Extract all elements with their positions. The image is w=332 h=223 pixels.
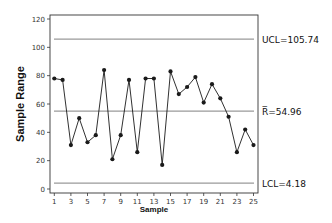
- y-tick-label: 40: [36, 129, 45, 137]
- y-axis-title: Sample Range: [14, 66, 26, 142]
- y-tick-label: 60: [36, 101, 45, 109]
- data-point: [235, 150, 239, 154]
- x-tick-label: 17: [183, 198, 192, 206]
- x-tick-label: 1: [52, 198, 56, 206]
- data-point: [144, 76, 148, 80]
- data-point: [85, 140, 89, 144]
- data-point: [69, 143, 73, 147]
- data-point: [227, 115, 231, 119]
- x-axis-title: Sample: [140, 205, 169, 214]
- data-point: [243, 127, 247, 131]
- y-tick-label: 80: [36, 72, 45, 80]
- data-point: [193, 75, 197, 79]
- data-series: [52, 68, 255, 167]
- y-tick-label: 0: [41, 186, 45, 194]
- plot-border: [50, 15, 258, 193]
- x-tick-label: 21: [216, 198, 225, 206]
- rbar-label: R̅=54.96: [262, 106, 302, 117]
- data-point: [251, 143, 255, 147]
- series-line: [54, 70, 253, 165]
- x-tick-label: 5: [85, 198, 89, 206]
- x-tick-label: 25: [249, 198, 258, 206]
- x-tick-label: 3: [69, 198, 73, 206]
- x-tick-label: 23: [232, 198, 241, 206]
- data-point: [168, 69, 172, 73]
- data-point: [218, 96, 222, 100]
- x-tick-label: 9: [118, 198, 122, 206]
- data-point: [52, 76, 56, 80]
- data-point: [185, 85, 189, 89]
- data-point: [102, 68, 106, 72]
- data-point: [177, 92, 181, 96]
- control-limits: UCL=105.74R̅=54.96LCL=4.18: [54, 35, 319, 189]
- data-point: [119, 133, 123, 137]
- y-tick-label: 20: [36, 157, 45, 165]
- data-point: [77, 116, 81, 120]
- data-point: [152, 76, 156, 80]
- ucl-label: UCL=105.74: [262, 35, 319, 45]
- data-point: [135, 150, 139, 154]
- y-axis: 020406080100120: [32, 16, 50, 194]
- x-tick-label: 19: [199, 198, 208, 206]
- data-point: [210, 82, 214, 86]
- data-point: [160, 163, 164, 167]
- data-point: [127, 78, 131, 82]
- x-tick-label: 7: [102, 198, 106, 206]
- data-point: [202, 100, 206, 104]
- y-tick-label: 120: [32, 16, 45, 24]
- lcl-label: LCL=4.18: [262, 179, 306, 189]
- data-point: [110, 157, 114, 161]
- r-control-chart: 020406080100120 135791113151719212325 UC…: [0, 0, 332, 223]
- data-point: [94, 133, 98, 137]
- plot-frame: [50, 15, 258, 193]
- y-tick-label: 100: [32, 44, 45, 52]
- data-point: [61, 78, 65, 82]
